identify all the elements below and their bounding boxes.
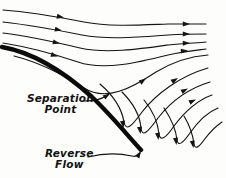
flow-separation-figure: Separation Point Reverse Flow bbox=[0, 0, 226, 178]
streamline-3-arrow-1-icon bbox=[52, 39, 60, 44]
streamline-5-arrow-1-icon bbox=[139, 79, 146, 85]
reverse-leader bbox=[88, 153, 140, 157]
separation-leader-arrow-icon bbox=[103, 94, 110, 100]
streamlines-group bbox=[3, 10, 222, 148]
streamline-7-arrow-1-icon bbox=[137, 127, 142, 134]
streamline-2-arrow-2-icon bbox=[183, 32, 190, 37]
reverse-flow-label-line2: Flow bbox=[45, 159, 94, 170]
streamline-canvas bbox=[0, 0, 226, 178]
reverse-flow-label: Reverse Flow bbox=[45, 148, 94, 169]
streamline-8-arrow-1-icon bbox=[155, 133, 160, 140]
streamline-1-arrow-2-icon bbox=[183, 22, 190, 27]
streamline-1 bbox=[3, 10, 206, 25]
streamline-4-arrow-1-icon bbox=[50, 52, 58, 57]
separation-point-label-line2: Point bbox=[27, 104, 94, 115]
reverse-leader-arrow-icon bbox=[135, 151, 141, 158]
streamline-10 bbox=[184, 116, 222, 147]
streamline-10-arrow-1-icon bbox=[190, 140, 195, 148]
streamline-8 bbox=[144, 95, 212, 138]
streamline-3-arrow-2-icon bbox=[183, 41, 190, 46]
streamline-9-arrow-1-icon bbox=[173, 138, 178, 145]
streamline-6 bbox=[100, 68, 208, 127]
streamline-9 bbox=[164, 108, 218, 144]
separation-point-label: Separation Point bbox=[27, 93, 94, 114]
streamline-7 bbox=[122, 82, 210, 133]
streamline-3 bbox=[3, 33, 206, 51]
